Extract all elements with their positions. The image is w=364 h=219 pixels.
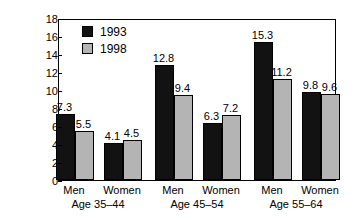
y-axis-tick-label: 14 (42, 50, 58, 61)
y-axis-tick-mark (58, 55, 62, 56)
y-axis-tick-label: 10 (42, 86, 58, 97)
legend-item: 1998 (82, 41, 127, 56)
y-axis-tick-label: 16 (42, 32, 58, 43)
bar-value-label: 9.6 (316, 82, 343, 93)
y-axis-tick-label: 18 (42, 14, 58, 25)
bar-value-label: 7.3 (51, 102, 78, 113)
y-axis-tick-mark (58, 127, 62, 128)
y-axis-tick-mark (58, 181, 62, 182)
y-axis-tick-mark (58, 91, 62, 92)
legend-label: 1998 (100, 43, 127, 55)
x-axis-group-label: Age 55–64 (251, 198, 341, 210)
legend-swatch-1998 (82, 43, 93, 54)
x-axis-group-label: Age 35–44 (53, 198, 143, 210)
y-axis-tick-labels: 181614121086420 (34, 19, 58, 181)
legend-item: 1993 (82, 24, 127, 39)
bar-value-label: 12.8 (150, 53, 177, 64)
bar-value-label: 7.2 (217, 103, 244, 114)
y-axis-tick-label: 12 (42, 68, 58, 79)
legend-label: 1993 (100, 26, 127, 38)
y-axis-tick-mark (58, 73, 62, 74)
bar-value-label: 11.2 (268, 67, 295, 78)
y-axis-tick-mark (58, 109, 62, 110)
bar-value-label: 4.5 (118, 128, 145, 139)
y-axis-tick-mark (58, 37, 62, 38)
y-axis-tick-mark (58, 145, 62, 146)
bar-value-label: 15.3 (249, 30, 276, 41)
x-axis-group-label: Age 45–54 (152, 198, 242, 210)
x-axis-sex-label: Women (290, 184, 350, 196)
y-axis-tick-mark (58, 163, 62, 164)
legend-swatch-1993 (82, 26, 93, 37)
bar-chart: Years of tenure 181614121086420 7.35.54.… (0, 0, 364, 219)
legend: 19931998 (82, 24, 127, 58)
bar-value-label: 5.5 (70, 119, 97, 130)
bar-value-label: 9.4 (169, 83, 196, 94)
y-axis-tick-mark (58, 19, 62, 20)
